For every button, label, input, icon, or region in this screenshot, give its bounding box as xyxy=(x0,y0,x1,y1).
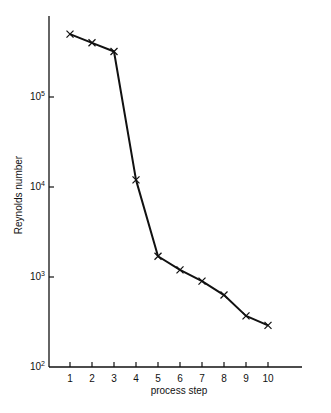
x-tick-label: 2 xyxy=(89,373,95,384)
x-tick-label: 9 xyxy=(243,373,249,384)
x-marker-icon xyxy=(177,266,184,273)
y-axis-label: Reynolds number xyxy=(13,156,24,234)
x-tick-label: 1 xyxy=(67,373,73,384)
x-marker-icon xyxy=(221,292,228,299)
x-tick-label: 5 xyxy=(155,373,161,384)
y-tick-label: 105 xyxy=(30,90,45,102)
x-tick-label: 4 xyxy=(133,373,139,384)
y-tick-label: 103 xyxy=(30,270,45,282)
x-tick-label: 7 xyxy=(199,373,205,384)
x-tick-label: 6 xyxy=(177,373,183,384)
data-markers xyxy=(67,31,272,329)
x-tick-label: 8 xyxy=(221,373,227,384)
x-tick-label: 3 xyxy=(111,373,117,384)
y-tick-label: 104 xyxy=(30,180,45,192)
axes xyxy=(49,16,302,367)
y-tick-label: 102 xyxy=(30,360,45,372)
series-line xyxy=(70,34,268,325)
y-ticks xyxy=(49,97,54,277)
chart-canvas xyxy=(0,0,331,413)
x-ticks xyxy=(70,362,268,367)
x-marker-icon xyxy=(199,278,206,285)
x-tick-label: 10 xyxy=(262,373,273,384)
x-axis-label: process step xyxy=(151,385,208,396)
